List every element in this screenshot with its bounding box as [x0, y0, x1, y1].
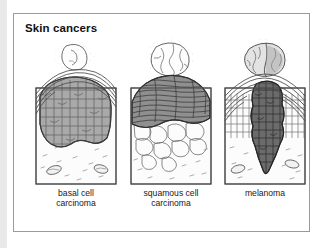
surface-lesion-squamous [145, 38, 195, 78]
page-left-margin-strip [0, 0, 7, 248]
label-line-2: carcinoma [122, 198, 220, 208]
basal-cell-diagram [33, 38, 119, 186]
panel-melanoma: melanoma [222, 38, 308, 204]
panel-label-melanoma: melanoma [216, 188, 314, 198]
surface-lesion-basal [55, 41, 95, 73]
panel-label-squamous-cell: squamous cell carcinoma [122, 188, 220, 209]
label-line-1: squamous cell [122, 188, 220, 198]
melanoma-diagram [222, 38, 308, 186]
surface-lesion-melanoma [240, 39, 288, 77]
cross-section-melanoma [225, 74, 305, 184]
cross-section-squamous [128, 75, 214, 184]
figure-title: Skin cancers [25, 22, 97, 34]
figure-frame: Skin cancers [13, 13, 310, 232]
squamous-cell-diagram [128, 38, 214, 186]
label-line-1: melanoma [216, 188, 314, 198]
panel-basal-cell-carcinoma: basal cell carcinoma [33, 38, 119, 204]
label-line-2: carcinoma [27, 198, 125, 208]
panel-label-basal-cell: basal cell carcinoma [27, 188, 125, 209]
panel-squamous-cell-carcinoma: squamous cell carcinoma [128, 38, 214, 204]
label-line-1: basal cell [27, 188, 125, 198]
cross-section-basal [36, 69, 116, 184]
